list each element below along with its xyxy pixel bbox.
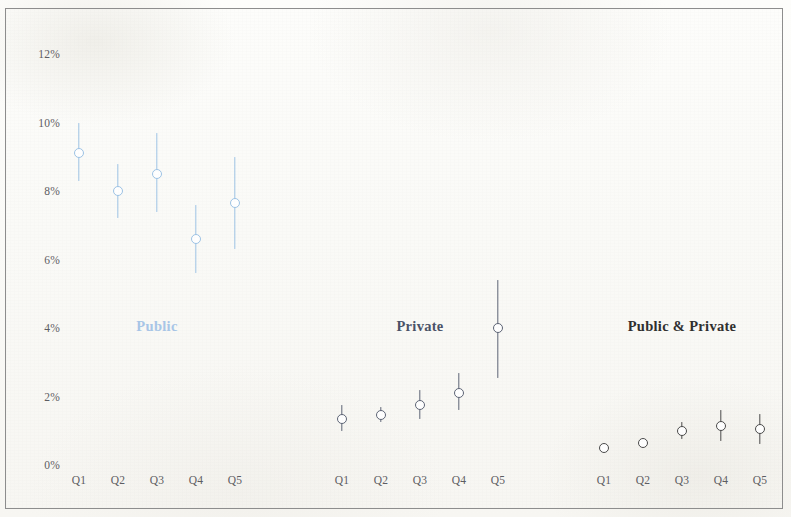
x-axis-tick-label: Q1 <box>597 474 611 486</box>
x-axis-tick-label: Q3 <box>675 474 689 486</box>
x-axis-tick-label: Q3 <box>150 474 164 486</box>
data-point-marker[interactable] <box>191 234 201 244</box>
group-label-public-private: Public & Private <box>628 318 737 335</box>
data-point-marker[interactable] <box>74 148 84 158</box>
group-label-public: Public <box>136 318 177 335</box>
x-axis-tick-label: Q2 <box>636 474 650 486</box>
y-axis-tick-label: 2% <box>20 391 60 403</box>
data-point-marker[interactable] <box>599 443 609 453</box>
data-point-marker[interactable] <box>493 323 503 333</box>
data-point-marker[interactable] <box>415 400 425 410</box>
y-axis-tick-label: 8% <box>20 185 60 197</box>
chart-frame: 12%10%8%6%4%2%0%Q1Q2Q3Q4Q5PublicQ1Q2Q3Q4… <box>5 8 783 509</box>
x-axis-tick-label: Q2 <box>111 474 125 486</box>
x-axis-tick-label: Q4 <box>452 474 466 486</box>
data-point-marker[interactable] <box>337 414 347 424</box>
x-axis-tick-label: Q5 <box>753 474 767 486</box>
data-point-marker[interactable] <box>716 421 726 431</box>
x-axis-tick-label: Q1 <box>72 474 86 486</box>
x-axis-tick-label: Q5 <box>228 474 242 486</box>
data-point-marker[interactable] <box>454 388 464 398</box>
data-point-marker[interactable] <box>230 198 240 208</box>
x-axis-tick-label: Q5 <box>491 474 505 486</box>
x-axis-tick-label: Q4 <box>714 474 728 486</box>
y-axis-tick-label: 6% <box>20 254 60 266</box>
data-point-marker[interactable] <box>677 426 687 436</box>
data-point-marker[interactable] <box>755 424 765 434</box>
data-point-marker[interactable] <box>152 169 162 179</box>
data-point-marker[interactable] <box>113 186 123 196</box>
x-axis-tick-label: Q1 <box>335 474 349 486</box>
x-axis-tick-label: Q4 <box>189 474 203 486</box>
plot-area: 12%10%8%6%4%2%0%Q1Q2Q3Q4Q5PublicQ1Q2Q3Q4… <box>6 9 782 508</box>
x-axis-tick-label: Q2 <box>374 474 388 486</box>
y-axis-tick-label: 12% <box>20 48 60 60</box>
y-axis-tick-label: 10% <box>20 117 60 129</box>
y-axis-tick-label: 0% <box>20 459 60 471</box>
y-axis-tick-label: 4% <box>20 322 60 334</box>
data-point-marker[interactable] <box>638 438 648 448</box>
group-label-private: Private <box>396 318 443 335</box>
x-axis-tick-label: Q3 <box>413 474 427 486</box>
data-point-marker[interactable] <box>376 410 386 420</box>
